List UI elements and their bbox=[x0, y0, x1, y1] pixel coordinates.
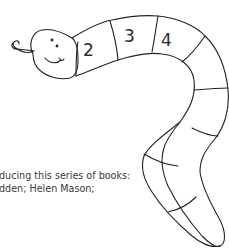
segment-divider bbox=[194, 88, 228, 90]
caption-text: ducing this series of books: dden; Helen… bbox=[0, 169, 130, 195]
caption-line-1: ducing this series of books: bbox=[0, 169, 130, 182]
eye-icon bbox=[51, 39, 53, 41]
body-left-contour bbox=[142, 122, 220, 247]
smile-icon bbox=[45, 58, 64, 63]
caption-line-2: dden; Helen Mason; bbox=[0, 182, 130, 195]
segment-divider bbox=[192, 128, 218, 136]
segment-number-3: 3 bbox=[124, 26, 135, 46]
segment-divider bbox=[110, 21, 118, 60]
segment-number-2: 2 bbox=[83, 40, 94, 60]
eye-icon bbox=[56, 45, 58, 47]
segment-divider bbox=[182, 36, 205, 62]
snake-illustration: 2 3 4 bbox=[0, 0, 229, 250]
segment-number-4: 4 bbox=[161, 30, 172, 50]
segment-divider bbox=[144, 154, 178, 166]
snake-head bbox=[31, 29, 78, 78]
body-top-edge bbox=[72, 16, 228, 246]
segment-divider bbox=[152, 16, 158, 52]
